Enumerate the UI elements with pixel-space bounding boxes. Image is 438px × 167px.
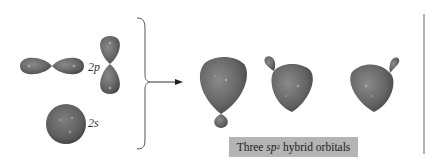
p-orbital-vertical bbox=[100, 36, 120, 94]
p-orbital-horizontal bbox=[20, 58, 84, 75]
brace bbox=[137, 18, 150, 149]
s-orbital bbox=[46, 104, 86, 144]
label-2p: 2p bbox=[88, 60, 100, 75]
hybridization-figure: 2p 2s Three sp2 hybrid orbitals bbox=[0, 0, 438, 167]
sp2-orbital-2 bbox=[264, 56, 312, 112]
arrow-head-icon bbox=[175, 79, 183, 85]
sp2-orbital-3 bbox=[350, 58, 399, 112]
orbital-drawing bbox=[0, 0, 438, 167]
caption-sp2-hybrids: Three sp2 hybrid orbitals bbox=[229, 137, 358, 157]
sp2-orbital-1 bbox=[200, 57, 247, 128]
label-2s: 2s bbox=[88, 116, 99, 131]
